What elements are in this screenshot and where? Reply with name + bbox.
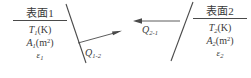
radiation-heat-exchange-diagram: 表面1 T1(K) A1(m2) ε1 表面2 T2(K) A2(m2) ε2 … [0,0,251,78]
surface1-area: A1(m2) [12,36,68,49]
surface2-label-block: 表面2 T2(K) A2(m2) ε2 [192,6,248,59]
flux-2-to-1-label: Q2-1 [142,24,158,36]
surface2-emissivity: ε2 [192,47,248,59]
surface2-area-unit: (m [216,35,227,46]
surface2-area: A2(m2) [192,34,248,47]
flux-1-to-2-arrow-shaft [78,32,118,43]
surface2-underline [193,18,247,19]
surface2-temperature-unit: (K) [217,22,231,33]
surface1-underline [13,20,67,21]
flux-2-to-1-subscript: 2-1 [149,29,158,36]
surface2-title: 表面2 [192,6,248,18]
surface1-area-unit: (m [36,37,47,48]
surface1-title: 表面1 [12,8,68,20]
surface1-temperature-unit: (K) [37,24,51,35]
surface2-plate-line [171,2,193,61]
flux-1-to-2-arrow-head [112,31,122,36]
surface1-plate-line [66,4,86,63]
surface2-area-unit-close: ) [230,35,233,46]
surface2-temperature: T2(K) [192,21,248,34]
flux-2-to-1-arrow-head [133,18,142,24]
surface1-emissivity-subscript: 1 [40,54,43,61]
surface1-temperature: T1(K) [12,23,68,36]
surface1-area-unit-close: ) [50,37,53,48]
surface1-label-block: 表面1 T1(K) A1(m2) ε1 [12,8,68,61]
surface1-emissivity: ε1 [12,49,68,61]
flux-1-to-2-subscript: 1-2 [92,52,101,59]
surface2-emissivity-subscript: 2 [220,52,223,59]
flux-1-to-2-label: Q1-2 [85,47,101,59]
